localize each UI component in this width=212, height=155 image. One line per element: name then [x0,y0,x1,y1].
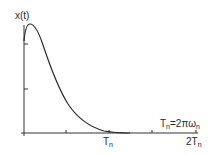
y-axis-label: x(t) [15,10,29,21]
annotation-tn-definition: Tn=2πωn [160,118,200,130]
series-line [24,24,130,133]
x-tick-label-tn: Tn [103,136,113,148]
chart: x(t) Tn 2Tn Tn=2πωn [0,0,212,155]
x-tick-label-2tn: 2Tn [186,136,202,148]
